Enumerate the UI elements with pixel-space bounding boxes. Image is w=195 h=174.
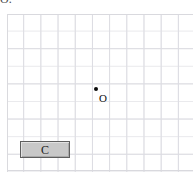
geometry-canvas-app: O. OC bbox=[0, 0, 195, 174]
plot-point-dot[interactable] bbox=[94, 87, 98, 91]
canvas-border-left bbox=[7, 14, 8, 172]
button-c[interactable]: C bbox=[20, 141, 70, 158]
canvas-border-top bbox=[7, 14, 193, 15]
canvas-border-bottom bbox=[7, 170, 193, 171]
top-caption-text: O. bbox=[0, 0, 12, 3]
button-c-label: C bbox=[41, 144, 49, 156]
plot-point-label: O bbox=[99, 93, 107, 104]
